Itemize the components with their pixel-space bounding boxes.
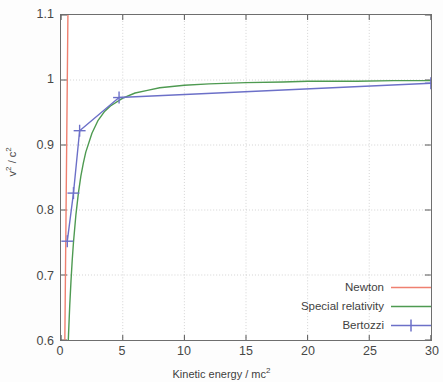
y-tick-label: 0.8 <box>8 204 54 217</box>
x-tick-label: 5 <box>102 345 142 358</box>
legend-item-label: Newton <box>345 282 384 294</box>
y-axis-title-base: v <box>6 171 18 177</box>
x-tick-label: 30 <box>412 345 443 358</box>
legend-item-swatch <box>390 281 432 294</box>
data-point-marker <box>61 235 73 247</box>
x-tick-label: 10 <box>164 345 204 358</box>
chart-figure: 0.60.70.80.911.1 051015202530 v2 / c2 Ki… <box>0 0 443 382</box>
x-axis-title-base: Kinetic energy / mc <box>173 368 267 380</box>
series-line-newton <box>61 15 68 341</box>
x-tick-label: 25 <box>350 345 390 358</box>
x-tick-label: 20 <box>288 345 328 358</box>
y-tick-label: 1 <box>8 73 54 86</box>
chart-legend: NewtonSpecial relativityBertozzi <box>292 280 432 333</box>
x-axis-title: Kinetic energy / mc2 <box>0 366 443 380</box>
legend-item-label: Bertozzi <box>342 320 384 332</box>
x-tick-label: 0 <box>40 345 80 358</box>
legend-item[interactable]: Special relativity <box>292 299 432 314</box>
y-axis-title-middle: / c <box>6 152 18 167</box>
y-axis-title: v2 / c2 <box>4 127 18 197</box>
x-axis-tick-labels: 051015202530 <box>0 345 443 363</box>
legend-item[interactable]: Bertozzi <box>292 318 432 333</box>
legend-item[interactable]: Newton <box>292 280 432 295</box>
series-line-bertozzi <box>67 83 431 241</box>
y-tick-label: 1.1 <box>8 8 54 21</box>
y-tick-label: 0.7 <box>8 269 54 282</box>
y-axis-title-exponent-2: 2 <box>4 147 13 151</box>
legend-item-swatch <box>390 300 432 313</box>
x-tick-label: 15 <box>226 345 266 358</box>
x-axis-title-exponent: 2 <box>266 366 270 375</box>
legend-item-label: Special relativity <box>301 301 384 313</box>
y-axis-title-exponent-1: 2 <box>4 166 13 170</box>
data-point-marker <box>425 77 432 89</box>
legend-item-swatch <box>390 319 432 332</box>
